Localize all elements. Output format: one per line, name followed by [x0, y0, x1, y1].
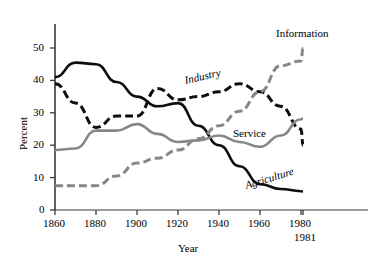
x-tick-label-extra: 1981 — [294, 232, 316, 243]
series-paths — [55, 48, 303, 192]
x-axis-title: Year — [178, 243, 198, 254]
y-tick-label: 30 — [33, 107, 44, 118]
x-tick-label: 1980 — [289, 218, 311, 229]
x-tick-label: 1860 — [43, 218, 65, 229]
y-axis-title: Percent — [18, 117, 29, 150]
x-tick-label: 1940 — [207, 218, 229, 229]
y-tick-label: 50 — [33, 42, 44, 53]
chart-figure: 01020304050 1860188019001920194019601980… — [0, 0, 378, 262]
series-label-service: Service — [233, 128, 266, 139]
y-tick-label: 20 — [33, 139, 44, 150]
y-tick-label: 0 — [39, 204, 45, 215]
series-line-information — [55, 48, 303, 186]
x-tick-label: 1960 — [248, 218, 270, 229]
y-tick-label: 10 — [33, 172, 44, 183]
series-label-information: Information — [276, 28, 329, 39]
y-tick-label: 40 — [33, 74, 44, 85]
axis-lines — [55, 24, 368, 210]
x-tick-label: 1920 — [166, 218, 188, 229]
x-tick-label: 1900 — [125, 218, 147, 229]
x-tick-label: 1880 — [84, 218, 106, 229]
x-axis-ticks — [55, 210, 303, 215]
